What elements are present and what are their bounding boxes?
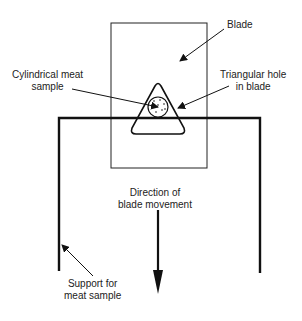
label-direction: Direction of blade movement [118,187,192,211]
label-blade-text: Blade [227,19,253,30]
label-meat-sample-line1: Cylindrical meat [12,69,83,81]
label-meat-sample-line2: sample [12,81,83,93]
label-hole-line2: in blade [220,81,286,93]
label-meat-sample: Cylindrical meat sample [12,69,83,93]
diagram-canvas [0,0,302,321]
label-triangular-hole: Triangular hole in blade [220,69,286,93]
label-hole-line1: Triangular hole [220,69,286,81]
label-support: Support for meat sample [64,278,121,302]
label-support-line1: Support for [64,278,121,290]
blade-leader-arrow [180,29,224,61]
label-direction-line2: blade movement [118,199,192,211]
label-blade: Blade [227,19,253,31]
support-leader-arrow [62,245,93,276]
meat-sample-leader-arrow [72,89,158,107]
direction-arrow-icon [153,210,163,294]
label-direction-line1: Direction of [118,187,192,199]
label-support-line2: meat sample [64,290,121,302]
